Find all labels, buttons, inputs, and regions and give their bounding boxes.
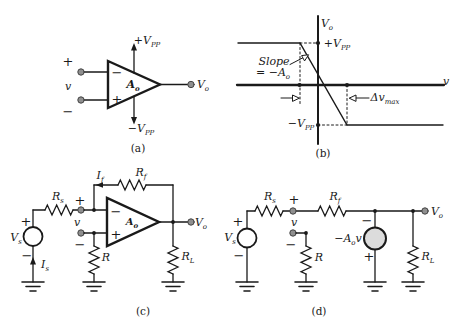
slope-arrowhead (302, 55, 309, 61)
negative-saturation-label: −VPP (288, 118, 315, 129)
positive-supply-label: +VPP (134, 35, 161, 46)
positive-saturation-label: +VPP (324, 38, 351, 49)
caption-a: (a) (131, 142, 145, 154)
delta-vmax-label: Δvmax (371, 92, 400, 103)
output-voltage-label: Vo (431, 206, 443, 217)
y-axis-label: Vo (321, 18, 333, 29)
input-minus-sign: − (286, 237, 297, 252)
negative-supply-label: −VPP (128, 123, 155, 134)
source-minus-sign: − (22, 248, 33, 263)
x-axis-label: v (443, 76, 449, 87)
r-label: R (102, 252, 110, 263)
opamp-inverting-sign: − (112, 65, 123, 80)
panel-b-transfer-characteristic (237, 16, 444, 144)
resistor-rl (168, 246, 178, 274)
output-voltage-label: Vo (195, 217, 207, 228)
input-terminal (78, 207, 84, 213)
caption-c: (c) (136, 305, 150, 317)
source-voltage-label: Vs (10, 232, 22, 243)
input-minus-sign: − (63, 104, 74, 119)
input-plus-sign: + (63, 54, 74, 69)
input-minus-sign: − (75, 237, 86, 252)
dependent-source-minus-sign: − (362, 213, 373, 228)
resistor-r (301, 246, 311, 274)
opamp-noninverting-sign: + (112, 92, 123, 107)
delta-left-arrowhead (293, 95, 300, 101)
dependent-source-label: −Aov (334, 233, 362, 244)
voltage-source (24, 227, 43, 246)
source-plus-sign: + (233, 214, 244, 229)
resistor-r (89, 246, 99, 274)
input-plus-sign: + (289, 192, 300, 207)
delta-right-arrowhead (350, 95, 357, 101)
resistor-rf (318, 206, 346, 216)
voltage-source (238, 229, 257, 248)
dependent-source (364, 228, 386, 250)
opamp-gain-label: Ao (126, 79, 139, 90)
panel-c-amplifier-circuit (22, 180, 194, 291)
rl-label: RL (422, 251, 435, 262)
input-voltage-label: v (291, 217, 297, 228)
opamp-gain-label: Ao (126, 217, 138, 227)
input-terminal (78, 69, 84, 75)
output-voltage-label: Vo (197, 79, 209, 90)
source-current-label: Is (41, 259, 49, 270)
input-plus-sign: + (75, 193, 86, 208)
input-terminal (290, 230, 296, 236)
rf-label: Rf (136, 167, 147, 178)
ground-symbol (22, 282, 44, 291)
source-voltage-label: Vs (224, 232, 236, 243)
panel-d-equivalent-circuit (236, 206, 428, 291)
opamp-figure: + v − − + Ao +VPP −VPP Vo (a) Vo v +VPP … (0, 0, 451, 332)
input-terminal (78, 230, 84, 236)
rs-label: Rs (52, 191, 64, 202)
input-voltage-label: v (65, 81, 71, 92)
resistor-rs (255, 206, 283, 216)
output-terminal (422, 208, 428, 214)
input-terminal (290, 208, 296, 214)
rf-label: Rf (330, 191, 341, 202)
ground-symbol (83, 282, 105, 291)
output-terminal (188, 219, 194, 225)
rl-label: RL (182, 251, 195, 262)
ground-symbol (236, 282, 258, 291)
ground-symbol (295, 282, 317, 291)
rs-label: Rs (264, 191, 276, 202)
caption-d: (d) (312, 305, 327, 317)
feedback-current-label: If (97, 170, 104, 181)
input-terminal (78, 97, 84, 103)
ground-symbol (402, 282, 424, 291)
output-terminal (188, 81, 194, 87)
source-minus-sign: − (234, 248, 245, 263)
caption-b: (b) (316, 147, 331, 159)
dependent-source-plus-sign: + (364, 249, 375, 264)
input-voltage-label: v (74, 217, 80, 228)
source-plus-sign: + (21, 214, 32, 229)
ground-symbol (364, 282, 386, 291)
opamp-inverting-sign: − (111, 204, 122, 219)
opamp-noninverting-sign: + (111, 227, 122, 242)
resistor-rs (45, 205, 73, 215)
slope-label-line2: = −Ao (256, 67, 290, 78)
r-label: R (315, 252, 323, 263)
resistor-rl (408, 246, 418, 274)
ground-symbol (162, 282, 184, 291)
resistor-rf (118, 180, 146, 190)
circuit-line-art (0, 0, 451, 332)
